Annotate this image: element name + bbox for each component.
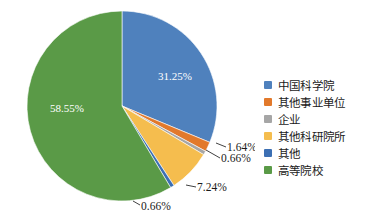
legend-item[interactable]: 其他 bbox=[264, 144, 364, 161]
legend-swatch-icon bbox=[264, 98, 272, 106]
pie-chart-figure: 31.25% 58.55% 1.64% 0.66% 7.24% 0.66% 中国… bbox=[0, 0, 367, 216]
slice-label-zhongguokexueyuan: 31.25% bbox=[158, 70, 192, 82]
legend-swatch-icon bbox=[264, 166, 272, 174]
legend-item[interactable]: 高等院校 bbox=[264, 161, 364, 178]
leader-line-3 bbox=[186, 185, 196, 187]
legend-item[interactable]: 其他科研院所 bbox=[264, 127, 364, 144]
legend-item-label: 企业 bbox=[278, 111, 300, 127]
leader-line-1 bbox=[216, 143, 226, 147]
legend-item[interactable]: 中国科学院 bbox=[264, 76, 364, 93]
legend-swatch-icon bbox=[264, 132, 272, 140]
callout-label-qitakeyanyuansuo: 7.24% bbox=[197, 181, 227, 193]
callout-label-qiye: 0.66% bbox=[221, 152, 251, 164]
legend-swatch-icon bbox=[264, 149, 272, 157]
legend-item-label: 其他事业单位 bbox=[278, 94, 345, 110]
callout-label-qita: 0.66% bbox=[141, 200, 171, 212]
legend-item-label: 其他 bbox=[278, 145, 300, 161]
legend-swatch-icon bbox=[264, 115, 272, 123]
leader-line-4 bbox=[133, 201, 140, 205]
legend-item-label: 高等院校 bbox=[278, 162, 323, 178]
legend-item-label: 中国科学院 bbox=[278, 77, 334, 93]
leader-line-2 bbox=[206, 150, 220, 158]
legend-item[interactable]: 其他事业单位 bbox=[264, 93, 364, 110]
legend-item[interactable]: 企业 bbox=[264, 110, 364, 127]
legend-item-label: 其他科研院所 bbox=[278, 128, 345, 144]
pie-plot-area: 31.25% 58.55% 1.64% 0.66% 7.24% 0.66% bbox=[0, 0, 255, 216]
slice-label-gaodengyuanxiao: 58.55% bbox=[50, 102, 84, 114]
chart-legend: 中国科学院其他事业单位企业其他科研院所其他高等院校 bbox=[264, 76, 364, 178]
legend-swatch-icon bbox=[264, 81, 272, 89]
pie-svg: 31.25% 58.55% 1.64% 0.66% 7.24% 0.66% bbox=[0, 0, 255, 216]
